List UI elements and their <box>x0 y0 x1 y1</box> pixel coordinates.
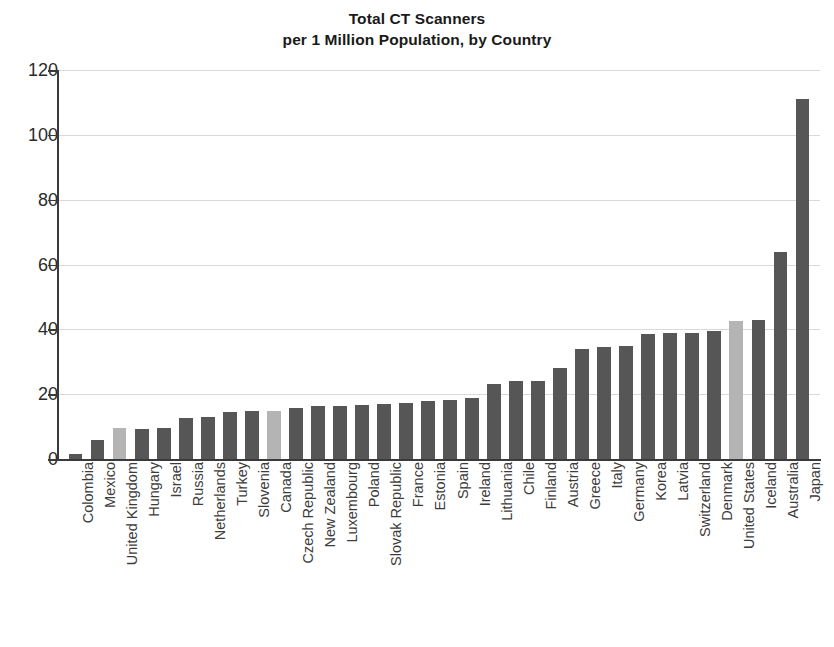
bar <box>487 384 501 459</box>
x-tick-label-text: Germany <box>632 462 647 522</box>
x-tick-label: Italy <box>610 462 625 489</box>
bar <box>157 428 171 459</box>
bar <box>91 440 105 459</box>
bar <box>179 418 193 459</box>
x-axis-line <box>57 459 821 461</box>
x-tick-label-text: United Kingdom <box>125 462 140 565</box>
x-tick-label: Czech Republic <box>301 462 316 564</box>
x-tick-label-text: Ireland <box>478 462 493 506</box>
bar <box>399 403 413 459</box>
x-tick-label: Estonia <box>433 462 448 510</box>
bar <box>531 381 545 459</box>
bar <box>113 428 127 459</box>
y-tick-mark <box>48 200 58 202</box>
x-tick-label: Switzerland <box>698 462 713 537</box>
bar <box>201 417 215 459</box>
x-tick-label: Mexico <box>103 462 118 508</box>
bar <box>267 411 281 459</box>
x-tick-label-text: Mexico <box>103 462 118 508</box>
x-tick-label-text: Italy <box>610 462 625 489</box>
chart-title: Total CT Scanners per 1 Million Populati… <box>0 8 834 50</box>
y-tick-mark <box>48 135 58 137</box>
bar <box>752 320 766 459</box>
bar <box>509 381 523 459</box>
x-tick-label-text: Denmark <box>720 462 735 521</box>
bar <box>553 368 567 459</box>
x-tick-label: Poland <box>367 462 382 507</box>
bar <box>774 252 788 459</box>
x-tick-label: Ireland <box>478 462 493 506</box>
x-tick-label-text: Israel <box>169 462 184 497</box>
x-tick-label-text: Switzerland <box>698 462 713 537</box>
x-tick-label: Slovak Republic <box>389 462 404 566</box>
x-tick-label-text: Canada <box>279 462 294 513</box>
x-tick-label: New Zealand <box>323 462 338 547</box>
chart-title-line-2: per 1 Million Population, by Country <box>0 29 834 50</box>
x-tick-label: France <box>411 462 426 507</box>
chart-title-line-1: Total CT Scanners <box>0 8 834 29</box>
x-tick-label: Korea <box>654 462 669 501</box>
x-tick-label: Japan <box>808 462 823 502</box>
bar <box>311 406 325 459</box>
y-axis: 020406080100120 <box>0 0 58 647</box>
y-tick-mark <box>48 70 58 72</box>
bar <box>729 321 743 459</box>
x-tick-label-text: Netherlands <box>213 462 228 540</box>
bar <box>135 429 149 459</box>
ct-scanners-bar-chart: Total CT Scanners per 1 Million Populati… <box>0 0 834 647</box>
x-tick-label: Iceland <box>764 462 779 509</box>
x-axis-tick-labels: ColombiaMexicoUnited KingdomHungaryIsrae… <box>58 462 820 647</box>
x-tick-label-text: Russia <box>191 462 206 506</box>
bar <box>377 404 391 459</box>
x-tick-label: United Kingdom <box>125 462 140 565</box>
bar <box>443 400 457 459</box>
x-tick-label: Luxembourg <box>345 462 360 543</box>
x-tick-label-text: New Zealand <box>323 462 338 547</box>
x-tick-label: Austria <box>566 462 581 507</box>
x-tick-label: Denmark <box>720 462 735 521</box>
bar <box>619 346 633 459</box>
bar <box>333 406 347 459</box>
x-tick-label-text: Slovak Republic <box>389 462 404 566</box>
x-tick-label: Spain <box>456 462 471 499</box>
x-tick-label: Lithuania <box>500 462 515 521</box>
bar <box>465 398 479 459</box>
x-tick-label-text: Estonia <box>433 462 448 510</box>
x-tick-label: Chile <box>522 462 537 495</box>
x-tick-label: Colombia <box>81 462 96 523</box>
x-tick-label: Hungary <box>147 462 162 517</box>
x-tick-label-text: Poland <box>367 462 382 507</box>
bar <box>685 333 699 459</box>
x-tick-label-text: Austria <box>566 462 581 507</box>
x-tick-label: Canada <box>279 462 294 513</box>
x-tick-label: Israel <box>169 462 184 497</box>
x-tick-label-text: Colombia <box>81 462 96 523</box>
x-tick-label: Russia <box>191 462 206 506</box>
x-tick-label: Turkey <box>235 462 250 506</box>
bar <box>796 99 810 459</box>
x-tick-label: Latvia <box>676 462 691 501</box>
x-tick-label-text: Lithuania <box>500 462 515 521</box>
x-tick-label-text: Iceland <box>764 462 779 509</box>
x-tick-label-text: Finland <box>544 462 559 510</box>
bar <box>575 349 589 459</box>
bar <box>355 405 369 459</box>
bar <box>69 454 83 459</box>
x-tick-label: Australia <box>786 462 801 518</box>
x-tick-label-text: Turkey <box>235 462 250 506</box>
x-tick-label-text: Chile <box>522 462 537 495</box>
bar <box>597 347 611 459</box>
bar <box>245 411 259 459</box>
x-tick-label: United States <box>742 462 757 549</box>
x-tick-label: Netherlands <box>213 462 228 540</box>
x-tick-label-text: France <box>411 462 426 507</box>
bar <box>707 331 721 459</box>
y-tick-mark <box>48 265 58 267</box>
x-tick-label: Germany <box>632 462 647 522</box>
bar <box>289 408 303 459</box>
x-tick-label-text: Luxembourg <box>345 462 360 543</box>
x-tick-label: Slovenia <box>257 462 272 518</box>
bar <box>641 334 655 459</box>
y-tick-mark <box>48 329 58 331</box>
bar <box>421 401 435 459</box>
